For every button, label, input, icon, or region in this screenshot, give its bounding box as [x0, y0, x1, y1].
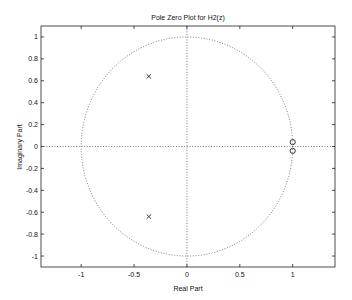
zero-marker-icon	[290, 148, 295, 153]
y-tick-label: 0	[34, 143, 38, 150]
y-tick-label: 0.8	[28, 55, 38, 62]
pole-marker-icon	[147, 214, 151, 218]
chart-title: Pole Zero Plot for H2(z)	[151, 14, 225, 22]
y-tick-label: -0.6	[26, 209, 38, 216]
y-tick-label: -0.4	[26, 187, 38, 194]
y-tick-label: 0.6	[28, 77, 38, 84]
x-tick-label: -1	[78, 271, 84, 278]
pole-marker-icon	[147, 74, 151, 78]
y-tick-label: 0.4	[28, 99, 38, 106]
x-tick-label: 0.5	[235, 271, 245, 278]
x-axis-label: Real Part	[173, 285, 202, 292]
plot-axes: -1-0.500.5110.80.60.40.20-0.2-0.4-0.6-0.…	[26, 26, 335, 278]
y-tick-label: 0.2	[28, 121, 38, 128]
y-tick-label: -1	[32, 253, 38, 260]
x-tick-label: 1	[291, 271, 295, 278]
y-tick-label: 1	[34, 33, 38, 40]
pole-zero-plot: Pole Zero Plot for H2(z) -1-0.500.5110.8…	[0, 0, 352, 300]
x-tick-label: 0	[185, 271, 189, 278]
y-axis-label: Imaginary Part	[16, 124, 24, 170]
y-tick-label: -0.2	[26, 165, 38, 172]
y-tick-label: -0.8	[26, 231, 38, 238]
x-tick-label: -0.5	[128, 271, 140, 278]
